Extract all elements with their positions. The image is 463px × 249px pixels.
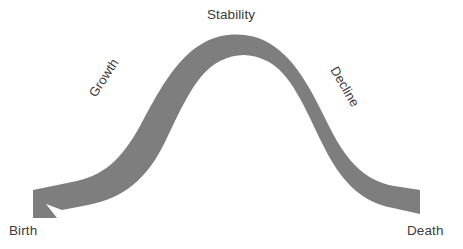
stage-label-stability: Stability (207, 7, 255, 22)
ribbon-curve-shape (33, 35, 420, 218)
lifecycle-ribbon-graphic (0, 0, 463, 249)
lifecycle-diagram: Stability Growth Decline Birth Death (0, 0, 463, 249)
endpoint-label-death: Death (407, 223, 444, 238)
endpoint-label-birth: Birth (9, 223, 37, 238)
